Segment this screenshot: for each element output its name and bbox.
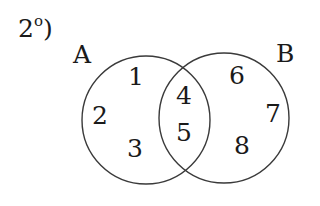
- element-2: 2: [92, 103, 108, 128]
- question-number: 2o): [18, 16, 53, 41]
- set-a-label: A: [73, 42, 91, 67]
- element-7: 7: [265, 101, 281, 126]
- element-1: 1: [128, 64, 144, 89]
- set-b-label: B: [276, 41, 294, 66]
- question-ordinal: o: [34, 12, 43, 30]
- question-paren: ): [43, 14, 53, 43]
- element-8: 8: [234, 133, 250, 158]
- element-6: 6: [229, 63, 245, 88]
- element-4: 4: [176, 83, 192, 108]
- element-5: 5: [176, 120, 192, 145]
- element-3: 3: [127, 136, 143, 161]
- question-number-digit: 2: [18, 14, 34, 43]
